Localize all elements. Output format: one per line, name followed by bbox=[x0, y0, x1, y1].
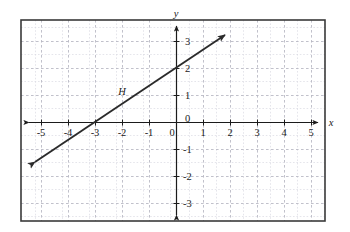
x-tick-neg2: -2 bbox=[118, 127, 127, 138]
graph-canvas: H x y -5 -4 -3 -2 -1 0 1 2 3 4 5 3 2 1 0… bbox=[0, 0, 350, 232]
y-tick-pos2: 2 bbox=[185, 63, 190, 74]
x-tick-neg1: -1 bbox=[145, 127, 154, 138]
x-tick-neg3: -3 bbox=[91, 127, 100, 138]
x-tick-neg4: -4 bbox=[64, 127, 73, 138]
plot-background bbox=[21, 20, 325, 221]
x-tick-pos2: 2 bbox=[227, 127, 232, 138]
x-tick-pos3: 3 bbox=[254, 127, 259, 138]
x-axis-name: x bbox=[328, 117, 334, 128]
line-h-label: H bbox=[117, 86, 127, 97]
y-tick-zero: 0 bbox=[185, 113, 190, 124]
x-tick-pos1: 1 bbox=[200, 127, 205, 138]
y-axis-name: y bbox=[173, 8, 179, 19]
y-tick-neg1: -1 bbox=[183, 144, 192, 155]
x-tick-origin: 0 bbox=[169, 127, 174, 138]
y-tick-neg2: -2 bbox=[183, 171, 192, 182]
coordinate-plane-figure: H x y -5 -4 -3 -2 -1 0 1 2 3 4 5 3 2 1 0… bbox=[0, 0, 350, 232]
x-tick-pos5: 5 bbox=[308, 127, 313, 138]
y-tick-pos1: 1 bbox=[185, 90, 190, 101]
x-tick-neg5: -5 bbox=[37, 127, 46, 138]
y-tick-neg3: -3 bbox=[183, 198, 192, 209]
x-tick-pos4: 4 bbox=[281, 127, 287, 138]
y-tick-pos3: 3 bbox=[185, 36, 190, 47]
